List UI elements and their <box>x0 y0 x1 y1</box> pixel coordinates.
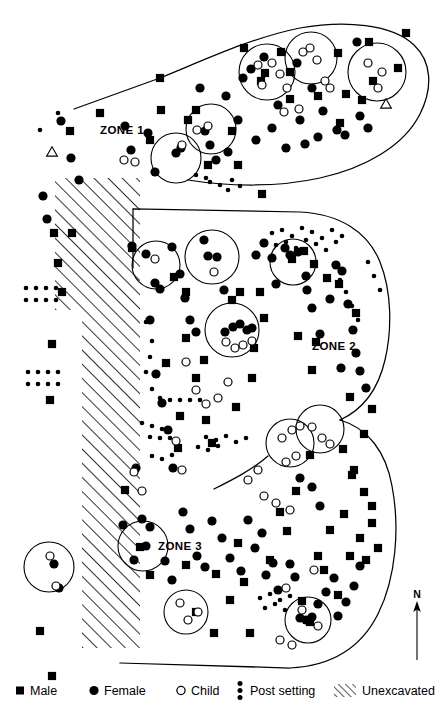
female-burial-marker <box>301 271 310 280</box>
zone-label-2: ZONE 2 <box>312 340 356 352</box>
child-burial-marker <box>364 59 372 67</box>
male-burial-marker <box>236 288 244 296</box>
female-burial-marker <box>129 555 138 564</box>
male-burial-marker <box>320 566 328 574</box>
child-burial-marker <box>214 394 222 402</box>
unexcavated-symbol-icon <box>334 684 356 697</box>
child-burial-marker <box>292 452 300 460</box>
female-burial-marker <box>141 541 150 550</box>
female-burial-marker <box>212 252 221 261</box>
male-burial-marker <box>248 374 256 382</box>
male-burial-marker <box>323 274 331 282</box>
female-burial-marker <box>66 153 75 162</box>
post-setting-marker <box>218 183 223 188</box>
female-burial-marker <box>363 123 372 132</box>
child-burial-marker <box>224 378 232 386</box>
grave-cluster-circle <box>151 133 201 183</box>
male-burial-marker <box>48 340 56 348</box>
female-burial-marker <box>307 303 316 312</box>
child-burial-marker <box>46 552 54 560</box>
male-burial-marker <box>358 96 366 104</box>
male-burial-marker <box>374 544 382 552</box>
female-burial-marker <box>290 572 299 581</box>
post-setting-marker <box>56 111 61 116</box>
post-setting-marker <box>324 248 329 253</box>
male-burial-marker <box>360 430 368 438</box>
child-burial-marker <box>151 255 159 263</box>
legend-item-post-setting: Post setting <box>238 681 316 700</box>
female-burial-marker <box>285 559 294 568</box>
cluster-circle-layer <box>24 32 406 643</box>
post-setting-marker <box>150 339 155 344</box>
female-burial-marker <box>295 473 304 482</box>
child-burial-marker <box>138 487 146 495</box>
female-burial-marker <box>336 363 345 372</box>
male-burial-marker <box>368 519 376 527</box>
legend-item-child: Child <box>177 684 220 698</box>
female-burial-marker <box>56 116 65 125</box>
post-setting-marker <box>244 436 249 441</box>
post-setting-marker <box>54 298 59 303</box>
male-burial-marker <box>192 106 200 114</box>
female-burial-marker <box>250 543 259 552</box>
zone-label-3: ZONE 3 <box>158 540 202 552</box>
male-burial-marker <box>402 29 410 37</box>
post-setting-marker <box>24 298 29 303</box>
female-burial-marker <box>49 559 58 568</box>
post-setting-marker <box>278 598 283 603</box>
female-burial-marker <box>257 528 266 537</box>
post-setting-marker <box>344 290 349 295</box>
child-burial-marker <box>248 337 256 345</box>
child-burial-marker <box>282 584 290 592</box>
female-burial-marker <box>238 73 247 82</box>
female-burial-marker <box>333 611 342 620</box>
male-burial-marker <box>360 488 368 496</box>
male-burial-marker <box>48 672 56 680</box>
child-burial-marker <box>314 622 322 630</box>
post-setting-marker <box>140 421 145 426</box>
post-setting-symbol-icon <box>238 681 243 700</box>
female-burial-marker <box>233 115 242 124</box>
post-setting-marker <box>204 435 209 440</box>
female-burial-marker <box>143 128 152 137</box>
zone-label-1: ZONE 1 <box>100 124 144 136</box>
female-burial-marker <box>126 145 135 154</box>
child-burial-marker <box>120 156 128 164</box>
female-burial-marker <box>178 507 187 516</box>
child-burial-marker <box>239 341 247 349</box>
post-setting-marker <box>150 387 155 392</box>
child-burial-marker <box>178 141 186 149</box>
post-setting-marker <box>36 370 41 375</box>
female-burial-marker <box>307 482 316 491</box>
child-burial-marker <box>260 492 268 500</box>
child-burial-marker <box>282 458 290 466</box>
post-setting-marker <box>144 370 149 375</box>
male-burial-marker <box>204 161 212 169</box>
post-setting-marker <box>270 231 275 236</box>
child-burial-marker <box>268 59 276 67</box>
male-burial-marker <box>192 374 200 382</box>
post-setting-marker <box>188 398 193 403</box>
grave-cluster-circle <box>285 32 337 84</box>
male-burial-marker <box>68 229 76 237</box>
male-burial-marker <box>208 439 216 447</box>
post-setting-marker <box>378 288 383 293</box>
female-burial-marker <box>191 327 200 336</box>
female-burial-marker <box>300 139 309 148</box>
female-burial-marker <box>318 106 327 115</box>
female-burial-marker <box>243 515 252 524</box>
female-burial-marker <box>217 533 226 542</box>
male-burial-marker <box>210 629 218 637</box>
female-burial-marker <box>175 269 184 278</box>
male-burial-marker <box>46 396 54 404</box>
male-burial-marker <box>176 412 184 420</box>
male-burial-marker <box>368 405 376 413</box>
child-burial-marker <box>306 44 314 52</box>
post-setting-marker <box>224 434 229 439</box>
post-setting-marker <box>36 382 41 387</box>
female-burial-marker <box>341 597 350 606</box>
female-burial-marker <box>281 143 290 152</box>
female-burial-marker <box>321 587 330 596</box>
female-burial-marker <box>74 175 83 184</box>
child-burial-marker <box>244 476 252 484</box>
